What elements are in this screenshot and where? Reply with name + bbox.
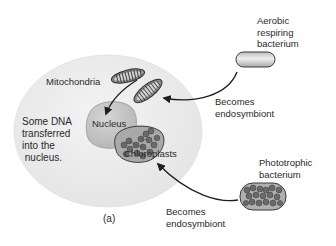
nucleus-label: Nucleus <box>92 118 126 130</box>
mitochondria-label: Mitochondria <box>46 76 100 88</box>
aerobic-bacterium <box>236 52 275 67</box>
aerobic-bacterium-label: Aerobic respiring bacterium <box>257 15 299 50</box>
dna-transfer-note: Some DNA transferred into the nucleus. <box>22 116 72 164</box>
endosymbiosis-diagram: Aerobic respiring bacterium Mitochondria… <box>0 0 336 246</box>
phototrophic-bacterium <box>240 183 286 210</box>
aerobic-arrow-label: Becomes endosymbiont <box>215 96 274 119</box>
panel-label: (a) <box>103 213 115 225</box>
phototrophic-bacterium-label: Phototrophic bacterium <box>259 157 312 180</box>
chloroplasts-label: Chloroplasts <box>124 148 177 160</box>
phototroph-arrow-label: Becomes endosymbiont <box>166 206 225 229</box>
